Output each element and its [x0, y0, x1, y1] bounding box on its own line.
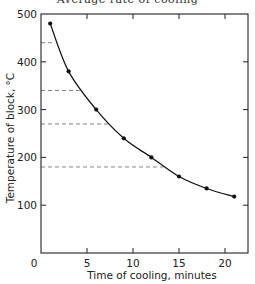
axis-ticks — [41, 14, 248, 253]
y-tick-label: 400 — [17, 56, 37, 68]
y-axis-label: Temperature of block, °C — [4, 73, 16, 204]
data-point-marker — [232, 194, 236, 198]
data-point-marker — [205, 186, 209, 190]
data-point-marker — [94, 108, 98, 112]
y-tick-label: 100 — [17, 199, 37, 211]
x-tick-label: 5 — [84, 257, 91, 269]
x-tick-label: 10 — [126, 257, 139, 269]
y-tick-label: 200 — [17, 151, 37, 163]
data-point-marker — [149, 155, 153, 159]
y-tick-label: 500 — [17, 8, 37, 20]
temperature-curve — [50, 24, 234, 197]
cooling-curve-figure: Average rate of cooling 0510152010020030… — [0, 0, 255, 284]
figure-title-fragment: Average rate of cooling — [0, 0, 255, 6]
plot-frame — [41, 14, 248, 253]
data-point-marker — [48, 21, 52, 25]
x-tick-label: 0 — [31, 257, 38, 269]
data-point-marker — [67, 69, 71, 73]
x-tick-label: 20 — [218, 257, 231, 269]
chart: 05101520100200300400500 Time of cooling,… — [0, 0, 255, 284]
x-tick-label: 15 — [172, 257, 185, 269]
x-axis-label: Time of cooling, minutes — [86, 269, 216, 281]
data-point-marker — [177, 174, 181, 178]
y-tick-label: 300 — [17, 104, 37, 116]
data-point-marker — [122, 136, 126, 140]
reference-lines — [41, 43, 163, 167]
data-series — [48, 21, 236, 198]
